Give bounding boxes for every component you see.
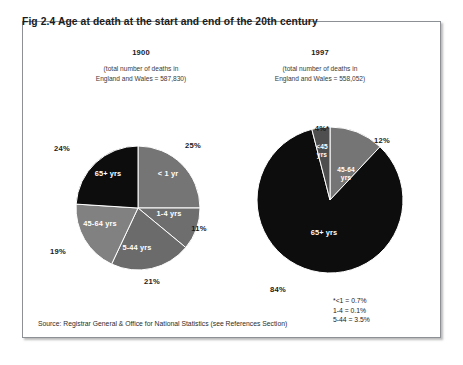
- pie-chart-1900: < 1 yr25%1-4 yrs11%5-44 yrs21%45-64 yrs1…: [52, 119, 230, 301]
- panel-year-label: 1997: [215, 48, 425, 57]
- pie-slice-label: 5-44 yrs: [122, 243, 151, 252]
- pie-slice-label: 45-64 yrs: [83, 219, 116, 228]
- panel-heading-1997: 1997 (total number of deaths in England …: [215, 48, 425, 83]
- pie-percentage-label: 84%: [270, 285, 286, 294]
- footnote-line-3: 5-44 = 3.5%: [333, 315, 370, 325]
- footnote-line-1: *<1 = 0.7%: [333, 296, 370, 306]
- footnote-line-2: 1-4 = 0.1%: [333, 306, 370, 316]
- panel-note-line-2: England and Wales = 558,052): [215, 74, 425, 84]
- pie-slice-label: <45yrs: [316, 143, 328, 159]
- pie-slice-label: 1-4 yrs: [157, 209, 182, 218]
- pie-percentage-label: 4%*: [315, 124, 330, 133]
- pie-slice-label: 65+ yrs: [311, 228, 338, 237]
- panel-note-line-1: (total number of deaths in: [215, 64, 425, 74]
- panel-note: (total number of deaths in England and W…: [215, 64, 425, 83]
- footnote: *<1 = 0.7% 1-4 = 0.1% 5-44 = 3.5%: [333, 296, 370, 325]
- pie-percentage-label: 19%: [50, 247, 66, 256]
- pie-percentage-label: 25%: [185, 141, 201, 150]
- source-note: Source: Registrar General & Office for N…: [38, 320, 287, 327]
- pie-percentage-label: 21%: [144, 277, 160, 286]
- pie-chart-1997: 45-64yrs12%65+ yrs84%<45yrs4%*: [230, 110, 430, 300]
- page-title: Fig 2.4 Age at death at the start and en…: [22, 16, 318, 27]
- pie-slice-label: < 1 yr: [158, 169, 178, 178]
- pie-percentage-label: 24%: [54, 144, 70, 153]
- pie-percentage-label: 11%: [191, 224, 206, 233]
- pie-chart-1997-svg: 45-64yrs12%65+ yrs84%<45yrs4%*: [230, 110, 430, 300]
- pie-slice-label: 65+ yrs: [95, 169, 122, 178]
- pie-chart-1900-svg: < 1 yr25%1-4 yrs11%5-44 yrs21%45-64 yrs1…: [52, 119, 230, 301]
- pie-percentage-label: 12%: [374, 136, 390, 145]
